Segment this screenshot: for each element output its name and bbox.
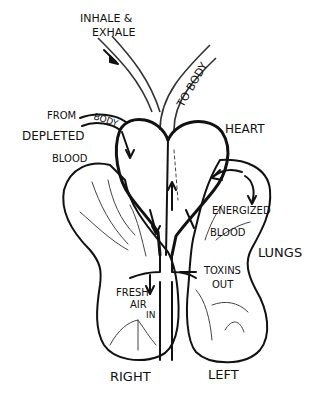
left-lung [187,160,270,363]
label-right: RIGHT [110,369,151,384]
heart-lungs-diagram: INHALE & EXHALE TO BODY FROM BODY DEPLET… [0,0,334,408]
label-in: IN [146,310,155,320]
label-inhale-exhale: INHALE & [80,12,133,25]
right-lung [63,164,178,360]
septum-dashes [174,150,178,200]
label-heart: HEART [225,122,265,136]
label-lungs: LUNGS [258,245,302,260]
label-depleted-blood: BLOOD [52,153,88,164]
label-energized: ENERGIZED [212,205,271,216]
label-to-body: TO BODY [174,60,211,110]
label-depleted: DEPLETED [22,129,84,143]
label-toxins-out: OUT [212,279,234,290]
label-toxins: TOXINS [203,265,241,276]
label-from: FROM [47,110,76,121]
airway [98,36,160,112]
label-air: AIR [130,299,147,310]
label-fresh: FRESH [116,287,149,298]
heart-septum [166,140,168,255]
label-energized-blood: BLOOD [210,227,246,238]
label-from-body: BODY [92,111,119,128]
label-left: LEFT [208,367,239,382]
label-inhale-exhale-2: EXHALE [92,26,135,39]
